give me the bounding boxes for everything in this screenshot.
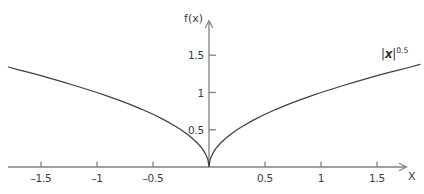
function-curve bbox=[8, 64, 420, 167]
plot-figure: –1.5 –1 –0.5 0.5 1 1.5 0.5 1 1.5 f(x) X … bbox=[0, 0, 424, 194]
y-axis-ticks bbox=[209, 55, 216, 130]
x-tick-label-1-5: 1.5 bbox=[369, 172, 385, 184]
x-tick-label-neg1-5: –1.5 bbox=[30, 172, 51, 184]
curve-annotation-label: |x|0.5 bbox=[381, 47, 408, 61]
x-tick-label-neg0-5: –0.5 bbox=[142, 172, 163, 184]
y-tick-label-1-5: 1.5 bbox=[182, 49, 204, 61]
y-axis-label: f(x) bbox=[184, 12, 203, 25]
y-tick-label-1: 1 bbox=[182, 87, 204, 99]
x-tick-label-neg1: –1 bbox=[91, 172, 103, 184]
x-axis-label: X bbox=[408, 170, 416, 183]
x-tick-label-1: 1 bbox=[318, 172, 324, 184]
plot-canvas bbox=[0, 0, 424, 194]
exponent-value: 0.5 bbox=[396, 46, 408, 55]
x-tick-label-0-5: 0.5 bbox=[257, 172, 273, 184]
y-tick-label-0-5: 0.5 bbox=[182, 124, 204, 136]
